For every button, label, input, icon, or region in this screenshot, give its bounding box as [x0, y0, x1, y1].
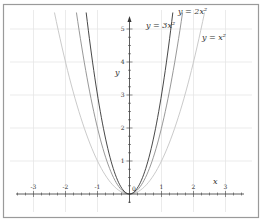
y-tick-label: 2 [121, 124, 125, 131]
x-tick-label: -1 [95, 183, 101, 190]
x-tick-label: -3 [31, 183, 37, 190]
y-tick-label: 5 [121, 25, 125, 32]
y-tick-label: 3 [121, 91, 125, 98]
label-3x2: y = 3x² [145, 21, 175, 30]
x-tick-label: 3 [224, 183, 228, 190]
plot-area: -3-2-112312345 y = 3x² y = 2x² y = x² y … [0, 0, 261, 220]
y-tick-label: 1 [121, 157, 125, 164]
origin-label: 0 [132, 185, 136, 192]
x-axis-label: x [213, 177, 218, 186]
chart-figure: -3-2-112312345 y = 3x² y = 2x² y = x² y … [0, 0, 261, 220]
x-tick-label: 1 [160, 183, 164, 190]
x-tick-label: -2 [63, 183, 69, 190]
x-tick-label: 2 [192, 183, 196, 190]
label-x2: y = x² [201, 33, 226, 42]
y-tick-label: 4 [121, 58, 125, 65]
y-axis-label: y [114, 68, 120, 77]
label-2x2: y = 2x² [177, 7, 207, 16]
